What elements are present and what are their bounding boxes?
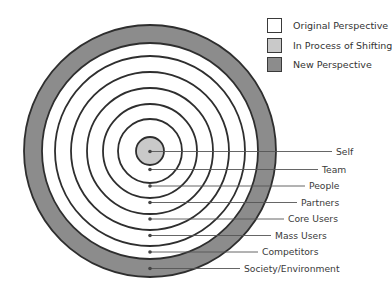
ring-label: People: [309, 180, 340, 191]
leader-dot-icon: [148, 267, 152, 271]
legend: Original Perspective In Process of Shift…: [267, 16, 392, 75]
leader-dot-icon: [148, 234, 152, 238]
ring-label: Competitors: [262, 246, 319, 257]
ring-label: Mass Users: [275, 230, 327, 241]
ring-label: Team: [321, 164, 346, 175]
legend-item-new: New Perspective: [267, 55, 392, 75]
legend-item-original: Original Perspective: [267, 16, 392, 36]
legend-label: New Perspective: [293, 59, 372, 70]
legend-label: Original Perspective: [293, 20, 388, 31]
leader-dot-icon: [148, 150, 152, 154]
leader-dot-icon: [148, 184, 152, 188]
leader-dot-icon: [148, 217, 152, 221]
new-swatch-icon: [267, 57, 282, 72]
ring-label: Self: [336, 146, 354, 157]
shifting-swatch-icon: [267, 38, 282, 53]
ring-label: Partners: [301, 197, 339, 208]
legend-label: In Process of Shifting: [293, 40, 392, 51]
original-swatch-icon: [267, 18, 282, 33]
ring-label: Core Users: [288, 213, 338, 224]
ring-label: Society/Environment: [244, 263, 340, 274]
leader-dot-icon: [148, 250, 152, 254]
leader-dot-icon: [148, 201, 152, 205]
legend-item-shifting: In Process of Shifting: [267, 36, 392, 56]
leader-dot-icon: [148, 168, 152, 172]
